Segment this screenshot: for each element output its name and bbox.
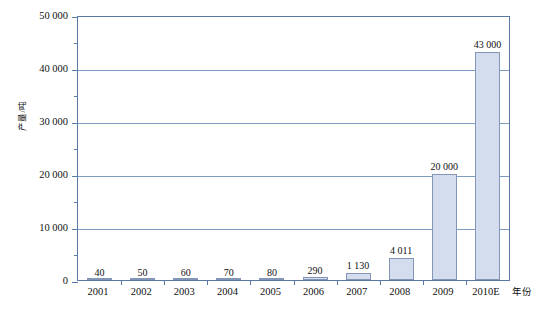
bar-2004	[216, 278, 241, 280]
bar-chart: 50 000 40 000 30 000 20 000 10 000 0 产量/…	[0, 0, 539, 312]
x-tick-label-2004: 2004	[206, 287, 249, 298]
bar-2006	[303, 277, 328, 280]
x-tick-boundary-1	[121, 280, 122, 285]
x-tick-label-2005: 2005	[249, 287, 292, 298]
x-axis-title: 年份	[512, 288, 532, 298]
y-tick-35000	[74, 96, 78, 97]
y-axis-title: 产量/吨	[18, 115, 27, 131]
y-tick-label-10000: 10 000	[39, 223, 68, 234]
bar-2008	[389, 258, 414, 280]
y-tick-label-30000: 30 000	[39, 117, 68, 128]
y-tick-40000	[72, 70, 78, 71]
x-tick-boundary-5	[294, 280, 295, 285]
x-tick-label-2002: 2002	[120, 287, 163, 298]
y-tick-label-0: 0	[63, 276, 68, 287]
y-tick-label-50000: 50 000	[39, 11, 68, 22]
bar-2010E	[475, 52, 500, 280]
x-tick-label-2009: 2009	[421, 287, 464, 298]
gridline-40000	[78, 70, 509, 71]
bar-2002	[130, 278, 155, 280]
x-tick-boundary-9	[466, 280, 467, 285]
bar-value-2008: 4 011	[376, 246, 426, 256]
bar-2003	[173, 278, 198, 280]
x-tick-label-2008: 2008	[378, 287, 421, 298]
bar-value-2009: 20 000	[419, 162, 469, 172]
y-tick-50000	[72, 17, 78, 18]
gridline-30000	[78, 123, 509, 124]
y-tick-label-20000: 20 000	[39, 170, 68, 181]
x-tick-boundary-7	[380, 280, 381, 285]
bar-value-2007: 1 130	[333, 261, 383, 271]
x-tick-label-2010E: 2010E	[465, 287, 508, 298]
y-tick-label-40000: 40 000	[39, 64, 68, 75]
bar-2009	[432, 174, 457, 280]
x-tick-label-2001: 2001	[77, 287, 120, 298]
y-tick-20000	[72, 176, 78, 177]
x-tick-label-2006: 2006	[292, 287, 335, 298]
y-tick-10000	[72, 229, 78, 230]
y-tick-45000	[74, 43, 78, 44]
y-tick-15000	[74, 202, 78, 203]
y-tick-5000	[74, 255, 78, 256]
bar-value-2010E: 43 000	[462, 40, 512, 50]
y-tick-30000	[72, 123, 78, 124]
x-tick-label-2007: 2007	[335, 287, 378, 298]
y-tick-25000	[74, 149, 78, 150]
y-tick-0	[72, 282, 78, 283]
bar-2007	[346, 273, 371, 280]
x-tick-label-2003: 2003	[163, 287, 206, 298]
plot-area: 40 50 60 70 80 290 1 130 4 011 20 000 43…	[77, 16, 510, 281]
x-tick-boundary-8	[423, 280, 424, 285]
bar-2001	[87, 278, 112, 280]
x-tick-boundary-4	[250, 280, 251, 285]
x-tick-boundary-3	[207, 280, 208, 285]
x-tick-boundary-6	[337, 280, 338, 285]
x-tick-boundary-2	[164, 280, 165, 285]
y-axis-labels: 50 000 40 000 30 000 20 000 10 000 0	[0, 0, 68, 312]
bar-2005	[259, 278, 284, 280]
